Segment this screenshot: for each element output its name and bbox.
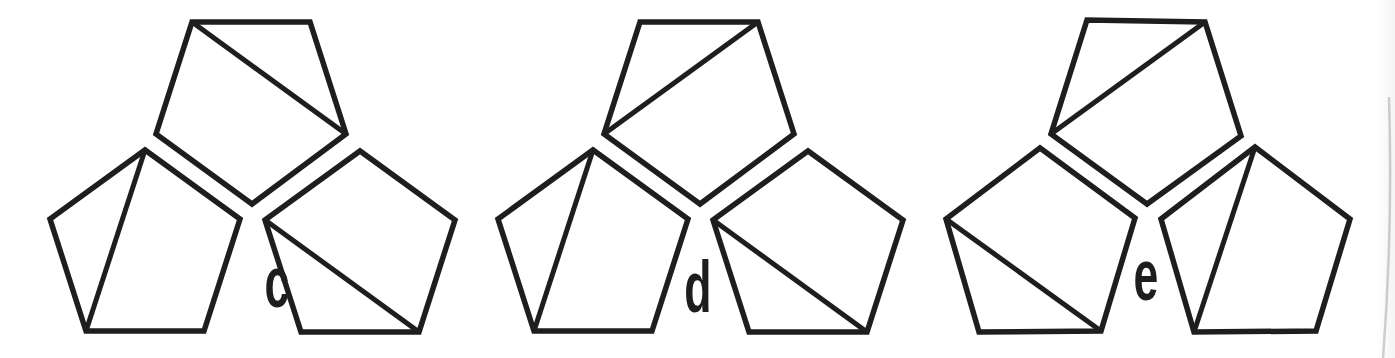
pentagon-lower-right-diagonal <box>713 220 867 332</box>
pentagon-top-diagonal <box>604 22 758 134</box>
figure-group-e: e <box>946 20 1350 332</box>
pentagon-lower-right-diagonal <box>1194 147 1255 332</box>
figure-label-c: c <box>265 242 290 323</box>
figure-group-c: c <box>50 22 455 332</box>
figure-label-d: d <box>684 247 711 328</box>
figure-label-e: e <box>1134 235 1159 316</box>
pentagon-top-diagonal <box>1051 22 1205 134</box>
pentagon-lower-left-diagonal <box>534 150 593 331</box>
scan-page-edge <box>1383 97 1390 358</box>
figure-canvas: cde <box>0 0 1395 358</box>
pentagon-lower-left-diagonal <box>946 219 1101 331</box>
pentagon-figure: cde <box>0 0 1395 358</box>
pentagon-lower-left-diagonal <box>86 150 145 331</box>
pentagon-top-diagonal <box>192 22 346 134</box>
figure-group-d: d <box>498 22 903 332</box>
